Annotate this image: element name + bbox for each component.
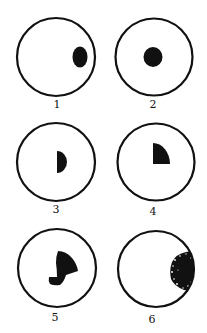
- spot-quarter-disc: [153, 143, 170, 164]
- panel-4: 4: [118, 124, 195, 219]
- panel-label: 2: [150, 98, 157, 111]
- circle-outline: [17, 123, 95, 201]
- panel-5: 5: [18, 229, 96, 324]
- panel-2: 2: [116, 19, 193, 112]
- panel-6: 6: [118, 231, 198, 326]
- spot-half-disc: [57, 151, 67, 173]
- spot-oval: [73, 47, 88, 68]
- panel-label: 6: [149, 313, 156, 326]
- spot-round: [144, 47, 163, 67]
- panel-1: 1: [17, 18, 95, 111]
- spot-irregular: [49, 251, 78, 285]
- panel-label: 4: [150, 205, 157, 218]
- panel-3: 3: [17, 123, 95, 216]
- panel-label: 3: [53, 203, 60, 216]
- figure-canvas: 1 2 3 4 5: [0, 0, 207, 333]
- panel-label: 1: [54, 98, 61, 111]
- panel-label: 5: [52, 311, 59, 324]
